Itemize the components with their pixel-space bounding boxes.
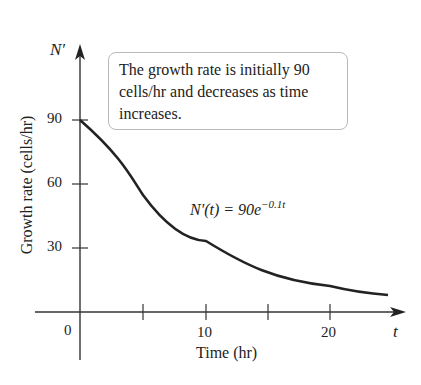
x-axis-variable: t <box>393 322 398 342</box>
origin-label: 0 <box>64 322 72 339</box>
x-tick-10: 10 <box>197 324 212 341</box>
equation-lhs: N′(t) = 90e <box>190 201 261 218</box>
callout-box: The growth rate is initially 90 cells/hr… <box>108 52 348 130</box>
y-axis-label: Growth rate (cells/hr) <box>18 100 36 270</box>
equation-label: N′(t) = 90e−0.1t <box>190 198 285 219</box>
x-axis-label: Time (hr) <box>196 344 257 362</box>
y-tick-90: 90 <box>47 110 62 127</box>
equation-exponent: −0.1t <box>261 198 285 210</box>
y-tick-60: 60 <box>47 174 62 191</box>
x-tick-20: 20 <box>321 324 336 341</box>
y-axis-variable: N′ <box>50 40 65 60</box>
y-tick-30: 30 <box>47 238 62 255</box>
callout-text: The growth rate is initially 90 cells/hr… <box>119 61 310 122</box>
